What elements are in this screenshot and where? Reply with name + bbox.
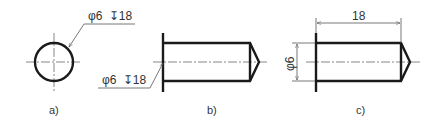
figure-a: φ6 ↧18 a)	[26, 9, 135, 116]
leader-line	[150, 63, 163, 88]
figure-label: c)	[356, 104, 365, 116]
diameter-dimension-text: φ6	[283, 56, 297, 71]
hole-callout: φ6 ↧18	[102, 73, 146, 87]
figure-label: a)	[49, 104, 59, 116]
figure-label: b)	[207, 104, 217, 116]
leader-line	[69, 24, 84, 47]
figure-b: φ6 ↧18 b)	[98, 33, 268, 116]
hole-callout: φ6 ↧18	[88, 9, 132, 23]
depth-icon: ↧	[123, 73, 133, 87]
depth-icon: ↧	[109, 9, 119, 23]
drawing-canvas: φ6 ↧18 a) φ6 ↧18 b) 18 φ6 c)	[0, 0, 440, 126]
length-dimension-text: 18	[352, 9, 366, 23]
figure-c: 18 φ6 c)	[283, 9, 420, 116]
